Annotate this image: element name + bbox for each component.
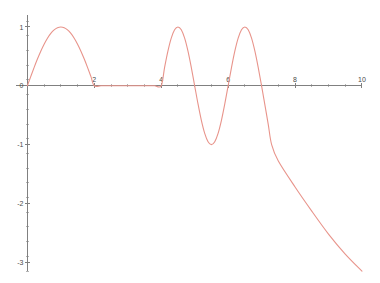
y-tick-label: -1 — [17, 141, 23, 148]
plot-canvas: 246810 10-1-2-3 — [0, 0, 380, 283]
y-tick-label: -2 — [17, 200, 23, 207]
x-tick-label: 8 — [293, 76, 297, 83]
y-tick-label: 1 — [19, 24, 23, 31]
x-tick-label: 10 — [358, 76, 366, 83]
data-curve — [27, 27, 362, 271]
y-tick-label: -3 — [17, 259, 23, 266]
chart-figure: 246810 10-1-2-3 — [0, 0, 380, 283]
y-axis-tick-labels: 10-1-2-3 — [17, 24, 23, 266]
y-tick-label: 0 — [19, 82, 23, 89]
